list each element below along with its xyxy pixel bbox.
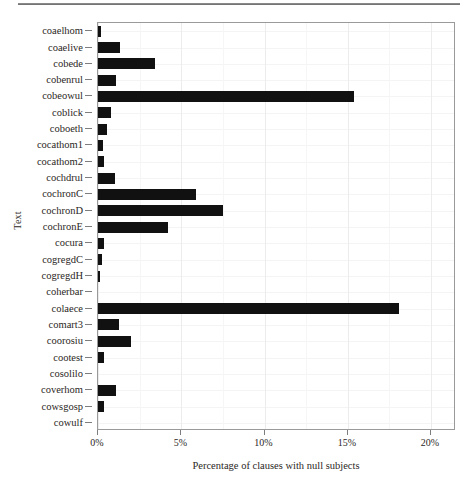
bar-cochronC <box>98 189 196 200</box>
y-tick-mark <box>85 30 92 31</box>
bar-cogregdC <box>98 254 102 265</box>
y-tick-mark <box>85 340 92 341</box>
y-tick-mark <box>85 373 92 374</box>
y-tick-label-cowsgosp: cowsgosp <box>42 400 83 411</box>
y-tick-mark <box>85 47 92 48</box>
x-tick-label-10pct: 10% <box>254 437 272 448</box>
y-tick-mark <box>85 193 92 194</box>
y-tick-mark <box>85 308 92 309</box>
bar-cogregdH <box>98 271 100 282</box>
y-tick-label-coorosiu: coorosiu <box>47 335 83 346</box>
bar-coverhom <box>98 385 116 396</box>
y-tick-mark <box>85 128 92 129</box>
y-tick-label-coherbar: coherbar <box>46 286 83 297</box>
x-tick-label-15pct: 15% <box>338 437 356 448</box>
y-tick-mark <box>85 95 92 96</box>
y-tick-label-coboeth: coboeth <box>50 123 83 134</box>
bar-cochronD <box>98 205 223 216</box>
bar-cobenrul <box>98 75 116 86</box>
y-tick-mark <box>85 63 92 64</box>
y-tick-mark <box>85 357 92 358</box>
y-tick-label-cochronE: cochronE <box>43 221 83 232</box>
y-tick-mark <box>85 226 92 227</box>
y-tick-label-cobenrul: cobenrul <box>46 74 83 85</box>
y-tick-mark <box>85 242 92 243</box>
x-tick-mark <box>430 430 431 435</box>
y-tick-mark <box>85 210 92 211</box>
y-tick-label-cosolilo: cosolilo <box>50 367 83 378</box>
y-tick-label-coaelhom: coaelhom <box>42 25 83 36</box>
bar-cochronE <box>98 222 168 233</box>
y-tick-label-colaece: colaece <box>52 302 83 313</box>
x-tick-label-5pct: 5% <box>174 437 187 448</box>
y-tick-label-cootest: cootest <box>53 351 83 362</box>
bar-coorosiu <box>98 336 131 347</box>
y-tick-label-cocura: cocura <box>55 237 83 248</box>
bar-comart3 <box>98 319 119 330</box>
y-tick-mark <box>85 259 92 260</box>
y-tick-mark <box>85 177 92 178</box>
y-tick-label-cobede: cobede <box>53 57 83 68</box>
y-tick-label-cocathom2: cocathom2 <box>37 155 83 166</box>
figure-container: Text coaelhomcoaelivecobedecobenrulcobeo… <box>0 0 472 485</box>
bar-cocura <box>98 238 104 249</box>
y-tick-mark <box>85 406 92 407</box>
y-tick-label-coaelive: coaelive <box>48 41 83 52</box>
bar-cobede <box>98 58 155 69</box>
x-tick-mark <box>264 430 265 435</box>
bar-coblick <box>98 107 111 118</box>
x-tick-label-20pct: 20% <box>421 437 439 448</box>
y-tick-label-comart3: comart3 <box>49 318 83 329</box>
y-tick-label-cowulf: cowulf <box>54 416 83 427</box>
y-tick-mark <box>85 291 92 292</box>
bar-cochdrul <box>98 173 115 184</box>
bar-coaelhom <box>98 26 101 37</box>
x-tick-mark <box>180 430 181 435</box>
y-tick-mark <box>85 324 92 325</box>
y-tick-label-coblick: coblick <box>52 106 83 117</box>
bar-cocathom2 <box>98 156 104 167</box>
y-tick-mark <box>85 422 92 423</box>
x-tick-label-0pct: 0% <box>90 437 103 448</box>
bar-colaece <box>98 303 399 314</box>
y-tick-label-cocathom1: cocathom1 <box>37 139 83 150</box>
y-tick-mark <box>85 144 92 145</box>
y-tick-label-cochronC: cochronC <box>42 188 83 199</box>
y-tick-label-cochronD: cochronD <box>42 204 83 215</box>
y-tick-mark <box>85 275 92 276</box>
x-tick-mark <box>97 430 98 435</box>
plot-panel <box>97 22 455 430</box>
bar-cobeowul <box>98 91 354 102</box>
bar-cowsgosp <box>98 401 104 412</box>
y-tick-mark <box>85 389 92 390</box>
bar-series <box>98 23 454 429</box>
y-tick-mark <box>85 79 92 80</box>
y-tick-mark <box>85 112 92 113</box>
y-axis: coaelhomcoaelivecobedecobenrulcobeowulco… <box>0 0 97 485</box>
bar-coaelive <box>98 42 120 53</box>
y-tick-label-cogregdH: cogregdH <box>42 270 83 281</box>
y-tick-label-coverhom: coverhom <box>41 384 83 395</box>
bar-cocathom1 <box>98 140 103 151</box>
x-axis-title: Percentage of clauses with null subjects <box>97 460 455 471</box>
y-tick-label-cogregdC: cogregdC <box>42 253 83 264</box>
bar-cootest <box>98 352 104 363</box>
y-tick-label-cochdrul: cochdrul <box>46 172 83 183</box>
y-tick-mark <box>85 161 92 162</box>
x-tick-mark <box>347 430 348 435</box>
bar-coboeth <box>98 124 107 135</box>
y-tick-label-cobeowul: cobeowul <box>42 90 83 101</box>
